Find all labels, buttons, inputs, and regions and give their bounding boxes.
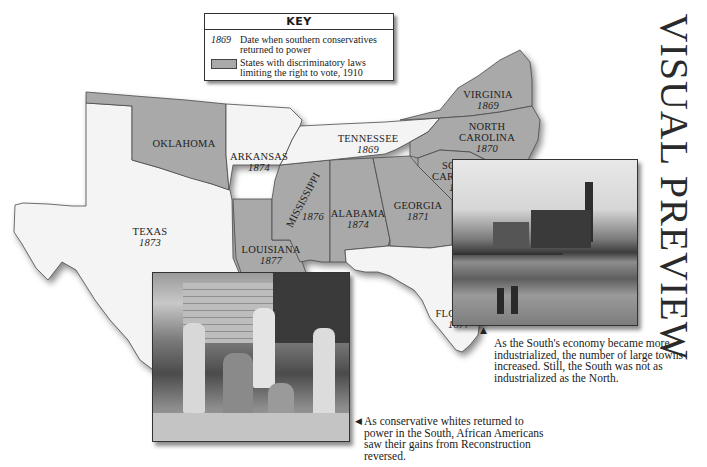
section-title-text: VISUAL PREVIEW [650, 14, 697, 361]
label-alabama: ALABAMA 1874 [328, 208, 388, 230]
tree-foliage [273, 273, 349, 343]
state-year: 1869 [456, 100, 520, 111]
person-figure [253, 308, 275, 388]
state-year: 1869 [328, 144, 408, 155]
key-row-year: 1869 Date when southern conservatives re… [211, 35, 393, 55]
section-title: VISUAL PREVIEW [640, 22, 707, 352]
person-figure [183, 323, 205, 413]
pointer-left-icon: ◀ [355, 416, 362, 426]
state-name: OKLAHOMA [153, 138, 216, 149]
state-name: GEORGIA [394, 200, 443, 211]
person-figure [497, 288, 504, 314]
state-year: 1874 [224, 162, 294, 173]
person-figure [313, 328, 335, 418]
factory-building [493, 222, 529, 248]
pointer-up-icon: ▲ [480, 325, 487, 335]
african-american-family-photo [152, 272, 350, 442]
state-name: TEXAS [133, 226, 168, 237]
state-year: 1876 [296, 211, 330, 222]
label-virginia: VIRGINIA 1869 [456, 89, 520, 111]
state-name: TENNESSEE [338, 133, 399, 144]
label-tennessee: TENNESSEE 1869 [328, 133, 408, 155]
state-name: LOUISIANA [242, 244, 301, 255]
state-name: NORTH CAROLINA [458, 121, 516, 143]
state-year: 1871 [388, 211, 448, 222]
key-heading: KEY [205, 14, 393, 30]
label-louisiana: LOUISIANA 1877 [236, 244, 306, 266]
state-year: 1870 [456, 143, 518, 154]
state-year: 1873 [125, 237, 175, 248]
state-name: ALABAMA [331, 208, 386, 219]
state-year: 1877 [236, 255, 306, 266]
state-name: VIRGINIA [463, 89, 512, 100]
factory-building [531, 210, 591, 248]
map-key: KEY 1869 Date when southern conservative… [204, 13, 394, 81]
ground [153, 413, 349, 441]
label-north-carolina: NORTH CAROLINA 1870 [456, 121, 518, 154]
label-mississippi-year: 1876 [296, 211, 330, 222]
caption-family: As conservative whites returned to power… [364, 416, 554, 462]
key-row-swatch: States with discriminatory laws limiting… [211, 58, 393, 78]
label-oklahoma: OKLAHOMA [144, 138, 224, 149]
state-year: 1874 [328, 219, 388, 230]
key-year-sample: 1869 [211, 35, 231, 45]
key-swatch-description: States with discriminatory laws limiting… [211, 58, 393, 78]
key-year-description: Date when southern conservatives returne… [211, 35, 393, 55]
bridge [453, 253, 563, 255]
gray-swatch-icon [211, 59, 237, 69]
label-texas: TEXAS 1873 [125, 226, 175, 248]
label-georgia: GEORGIA 1871 [388, 200, 448, 222]
person-figure [511, 286, 518, 314]
industrial-town-photo [452, 159, 638, 326]
state-name: ARKANSAS [230, 151, 288, 162]
label-arkansas: ARKANSAS 1874 [224, 151, 294, 173]
